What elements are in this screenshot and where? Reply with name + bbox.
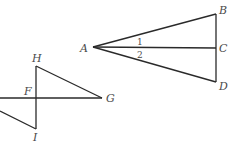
- label-h: H: [31, 52, 42, 65]
- label-f: F: [23, 85, 32, 98]
- label-a: A: [79, 42, 88, 55]
- label-c: C: [219, 42, 228, 55]
- figure-hfgi: H F G I: [0, 52, 115, 143]
- segment-to-i: [0, 111, 36, 129]
- angle-1-label: 1: [137, 37, 143, 47]
- label-d: D: [218, 80, 228, 93]
- geometry-diagram: A B C D 1 2 H F G I: [0, 0, 230, 143]
- label-i: I: [32, 131, 38, 143]
- segment-ab: [93, 14, 216, 47]
- label-g: G: [106, 92, 115, 105]
- segment-ac: [93, 47, 216, 48]
- segment-ad: [93, 47, 216, 82]
- segment-hg: [36, 66, 102, 98]
- angle-2-label: 2: [137, 50, 143, 60]
- label-b: B: [218, 4, 227, 17]
- figure-abcd: A B C D 1 2: [79, 4, 228, 93]
